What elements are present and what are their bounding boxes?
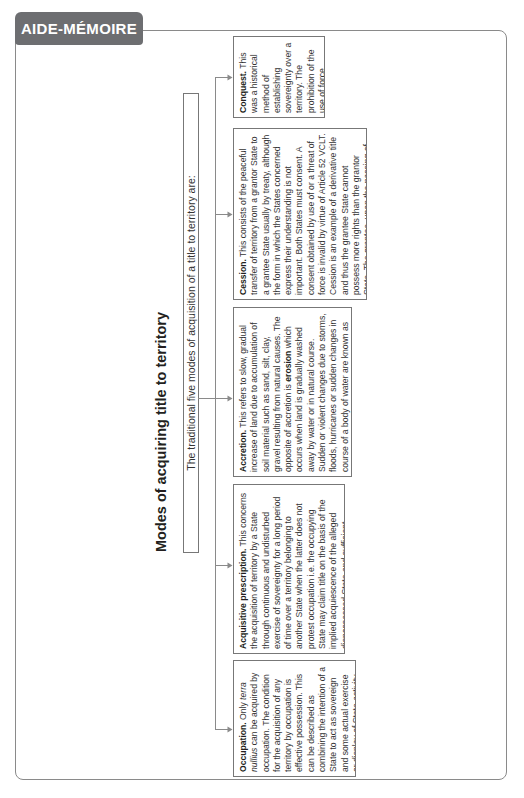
arrow-icon xyxy=(228,727,233,733)
mode-description: Only xyxy=(238,700,248,722)
mode-box-accretion: Accretion. This refers to slow, gradual … xyxy=(233,307,352,477)
mode-description: This concerns the acquisition of territo… xyxy=(238,493,345,649)
mode-description-cont: can be acquired by occupation. The condi… xyxy=(249,667,356,772)
mode-description: This consists of the peaceful transfer o… xyxy=(238,133,367,295)
tab-label: AIDE-MÉMOIRE xyxy=(21,20,137,37)
diagram-title-text: Modes of acquiring title to territory xyxy=(153,312,169,552)
bold-term: erosion xyxy=(283,351,293,382)
mode-box-conquest: Conquest. This was a historical method o… xyxy=(233,36,325,118)
mode-description: This was a historical method of establis… xyxy=(238,43,325,113)
arrow-icon xyxy=(228,396,233,402)
intro-text: The traditional five modes of acquisitio… xyxy=(185,175,197,470)
trunk-line xyxy=(215,77,216,729)
arrow-icon xyxy=(228,75,233,81)
mode-name: Conquest. xyxy=(238,71,248,113)
mode-name: Occupation. xyxy=(238,722,248,772)
diagram-title: Modes of acquiring title to territory xyxy=(150,252,172,612)
arrow-icon xyxy=(228,212,233,218)
mode-name: Accretion. xyxy=(238,430,248,472)
aide-memoire-tab: AIDE-MÉMOIRE xyxy=(15,12,143,45)
intro-box: The traditional five modes of acquisitio… xyxy=(183,93,199,553)
mode-box-cession: Cession. This consists of the peaceful t… xyxy=(233,128,367,300)
mode-name: Cession. xyxy=(238,259,248,295)
connector-line xyxy=(198,398,215,399)
mode-box-occupation: Occupation. Only terra nullius can be ac… xyxy=(233,660,356,777)
arrow-icon xyxy=(228,563,233,569)
mode-box-acquisitive-prescription: Acquisitive prescription. This concerns … xyxy=(233,484,345,654)
mode-name: Acquisitive prescription. xyxy=(238,549,248,649)
mode-description-cont: which occurs when land is gradually wash… xyxy=(283,313,352,472)
